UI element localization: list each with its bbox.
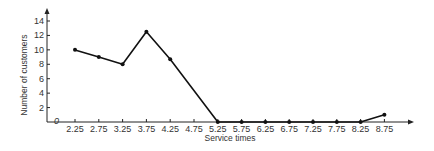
y-tick-label: 12 [34, 30, 44, 40]
data-point-marker [240, 120, 244, 124]
x-tick-label: 2.75 [90, 124, 108, 134]
x-tick-label: 3.75 [138, 124, 156, 134]
x-tick-label: 2.25 [66, 124, 84, 134]
x-tick-label: 3.25 [114, 124, 132, 134]
data-point-marker [97, 55, 101, 59]
data-point-marker [311, 120, 315, 124]
data-series [73, 30, 386, 124]
data-point-marker [382, 113, 386, 117]
x-axis-label: Service times [204, 133, 255, 143]
y-tick-label: 6 [39, 74, 44, 84]
x-tick-label: 7.75 [328, 124, 346, 134]
x-tick-label: 6.75 [280, 124, 298, 134]
data-point-marker [121, 62, 125, 66]
data-point-marker [335, 120, 339, 124]
data-point-marker [216, 120, 220, 124]
x-tick-label: 4.25 [161, 124, 179, 134]
data-point-marker [359, 120, 363, 124]
y-tick-label: 10 [34, 45, 44, 55]
x-axis-arrow-icon [408, 120, 414, 125]
data-point-marker [287, 120, 291, 124]
data-point-marker [263, 120, 267, 124]
y-tick-label: 14 [34, 16, 44, 26]
y-axis-arrow-icon [45, 8, 50, 14]
line-chart: 2468101214 2.252.753.253.754.254.755.255… [0, 0, 434, 151]
y-tick-label: 8 [39, 59, 44, 69]
y-axis-ticks: 2468101214 [34, 16, 50, 113]
x-tick-label: 7.25 [304, 124, 322, 134]
data-point-marker [168, 57, 172, 61]
series-line [75, 32, 384, 122]
x-tick-label: 8.25 [352, 124, 370, 134]
x-tick-label: 6.25 [257, 124, 275, 134]
origin-label: 0 [54, 116, 59, 126]
y-tick-label: 2 [39, 103, 44, 113]
data-point-marker [144, 30, 148, 34]
x-tick-label: 8.75 [376, 124, 394, 134]
data-point-marker [73, 48, 77, 52]
axes [45, 8, 415, 125]
y-tick-label: 4 [39, 88, 44, 98]
x-tick-label: 4.75 [185, 124, 203, 134]
y-axis-label: Number of customers [19, 34, 29, 115]
